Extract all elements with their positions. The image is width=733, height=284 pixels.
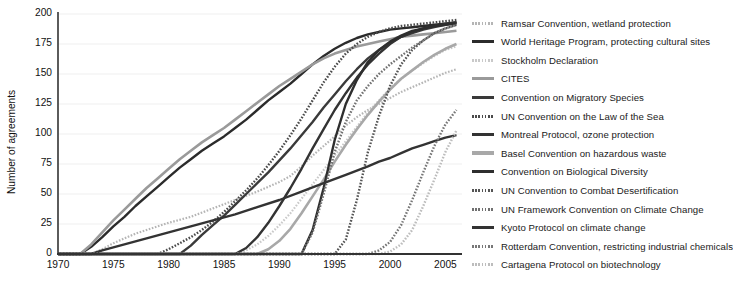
legend-swatch-icon [472,170,494,173]
y-tick-label: 200 [12,7,52,18]
legend-item-label: Rotterdam Convention, restricting indust… [501,241,733,252]
legend-item-label: Montreal Protocol, ozone protection [501,129,654,140]
series-line [58,24,456,254]
legend-swatch-icon [472,263,494,266]
legend-item[interactable]: CITES [472,72,530,86]
legend-item-label: UN Convention on the Law of the Sea [501,111,664,122]
legend-item-label: World Heritage Program, protecting cultu… [501,36,710,47]
y-axis-title: Number of agreements [6,90,17,194]
x-tick-label: 1995 [320,259,350,270]
series-line [58,22,456,254]
legend-item[interactable]: Kyoto Protocol on climate change [472,221,646,235]
legend-item-label: CITES [501,73,530,84]
legend-item[interactable]: Stockholm Declaration [472,53,598,67]
legend-swatch-icon [472,208,494,211]
legend-item-label: Ramsar Convention, wetland protection [501,18,671,29]
y-tick-label: 75 [12,157,52,168]
legend-item-label: Convention on Migratory Species [501,92,644,103]
legend-item-label: Stockholm Declaration [501,55,598,66]
legend-item[interactable]: Cartagena Protocol on biotechnology [472,258,661,272]
legend-item[interactable]: UN Convention on the Law of the Sea [472,109,664,123]
legend-item[interactable]: UN Framework Convention on Climate Chang… [472,202,704,216]
series-line [58,22,456,254]
legend-item-label: Kyoto Protocol on climate change [501,222,646,233]
legend-item[interactable]: Rotterdam Convention, restricting indust… [472,239,733,253]
legend-item-label: Convention on Biological Diversity [501,166,648,177]
legend-item-label: Cartagena Protocol on biotechnology [501,259,661,270]
series-line [58,25,456,254]
line-chart: 2001751501251007550250 19701975198019851… [0,0,470,284]
legend-item-label: UN Framework Convention on Climate Chang… [501,204,704,215]
legend-swatch-icon [472,96,494,99]
legend-item[interactable]: UN Convention to Combat Desertification [472,183,678,197]
legend-item-label: UN Convention to Combat Desertification [501,185,678,196]
y-tick-label: 125 [12,97,52,108]
legend-swatch-icon [472,59,494,62]
x-tick-label: 1990 [264,259,294,270]
y-tick-label: 25 [12,217,52,228]
legend-item[interactable]: Convention on Migratory Species [472,90,644,104]
x-tick-label: 1985 [209,259,239,270]
legend-swatch-icon [472,226,494,229]
y-tick-label: 50 [12,187,52,198]
legend-swatch-icon [472,245,494,248]
legend-swatch-icon [472,40,494,43]
x-tick-label: 1975 [98,259,128,270]
series-line [58,69,456,254]
x-tick-label: 2005 [430,259,460,270]
legend-item[interactable]: Ramsar Convention, wetland protection [472,16,671,30]
x-tick-label: 1970 [43,259,73,270]
series-line [58,20,456,254]
plot-svg [0,0,470,284]
legend-swatch-icon [472,189,494,192]
legend-swatch-icon [472,115,494,118]
y-tick-label: 150 [12,67,52,78]
x-tick-label: 2000 [375,259,405,270]
chart-legend: Ramsar Convention, wetland protectionWor… [470,0,727,284]
y-tick-label: 175 [12,37,52,48]
legend-item[interactable]: World Heritage Program, protecting cultu… [472,35,710,49]
series-line [58,22,456,254]
legend-item[interactable]: Convention on Biological Diversity [472,165,648,179]
x-tick-label: 1980 [154,259,184,270]
legend-item[interactable]: Montreal Protocol, ozone protection [472,128,654,142]
legend-swatch-icon [472,22,494,25]
legend-swatch-icon [472,77,494,80]
y-tick-label: 100 [12,127,52,138]
series-line [58,31,456,254]
y-tick-label: 0 [12,247,52,258]
legend-swatch-icon [472,133,494,136]
legend-item[interactable]: Basel Convention on hazardous waste [472,146,666,160]
legend-swatch-icon [472,151,494,154]
legend-item-label: Basel Convention on hazardous waste [501,148,666,159]
